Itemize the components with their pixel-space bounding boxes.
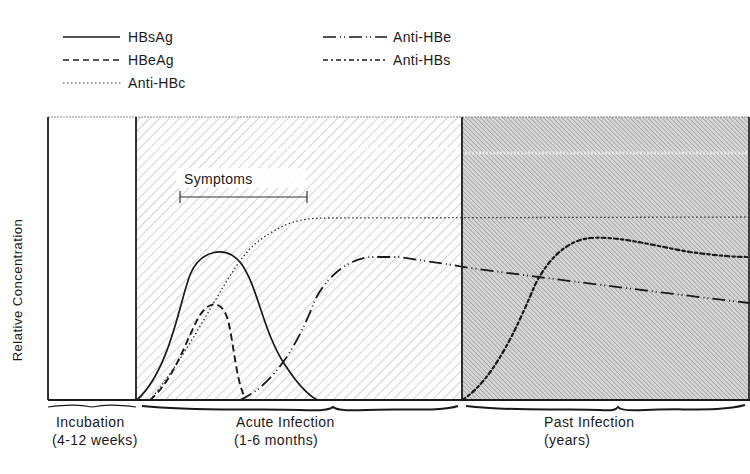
incubation-label: Incubation (56, 414, 125, 430)
acute-infection-label: Acute Infection (236, 414, 335, 430)
past-brace (466, 405, 745, 410)
acute-infection-sublabel: (1-6 months) (234, 432, 318, 448)
legend-label: Anti-HBs (393, 52, 451, 68)
legend-label: HBsAg (128, 29, 173, 45)
hbv-serology-figure: HBsAg HBeAg Anti-HBc Anti-HBe Anti-HBs R… (0, 0, 750, 474)
phase-braces (48, 405, 745, 410)
legend-item-hbsag: HBsAg (63, 29, 173, 45)
past-infection-sublabel: (years) (544, 432, 590, 448)
acute-brace (142, 406, 458, 410)
past-infection-panel (462, 117, 750, 400)
plot-area (48, 117, 750, 400)
legend-item-anti-hbe: Anti-HBe (323, 29, 451, 45)
legend-label: Anti-HBc (128, 75, 186, 91)
legend: HBsAg HBeAg Anti-HBc Anti-HBe Anti-HBs (63, 29, 451, 91)
symptoms-label: Symptoms (184, 171, 253, 187)
legend-label: HBeAg (128, 52, 174, 68)
y-axis-label: Relative Concentration (10, 219, 25, 362)
incubation-brace (48, 405, 136, 407)
phase-labels: Incubation (4-12 weeks) Acute Infection … (52, 414, 634, 448)
legend-label: Anti-HBe (393, 29, 451, 45)
legend-item-hbeag: HBeAg (63, 52, 174, 68)
incubation-sublabel: (4-12 weeks) (52, 432, 138, 448)
past-infection-label: Past Infection (544, 414, 634, 430)
legend-item-anti-hbc: Anti-HBc (63, 75, 186, 91)
incubation-panel (48, 117, 136, 400)
legend-item-anti-hbs: Anti-HBs (323, 52, 451, 68)
